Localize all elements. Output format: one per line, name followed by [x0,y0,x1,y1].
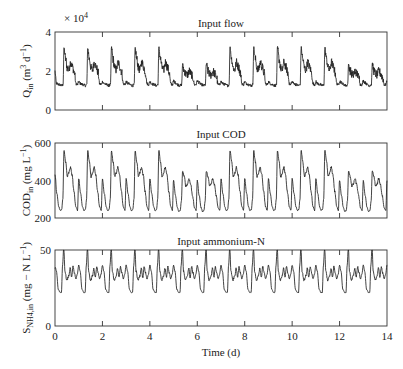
x-axis-label: Time (d) [202,346,241,359]
y-tick-label: 50 [40,244,52,256]
axes-frame [55,250,387,326]
y-tick-label: 0 [46,104,52,116]
panel-input-ammonium: Input ammonium-N Time (d) 02468101214050… [19,235,393,359]
data-series-line [55,250,387,293]
x-tick-label: 14 [382,330,394,342]
y-tick-label: 200 [35,212,52,224]
y-tick-label: 0 [46,320,52,332]
x-tick-label: 12 [334,330,345,342]
y-tick-label: 4 [46,26,52,38]
x-tick-label: 2 [100,330,106,342]
x-tick-label: 8 [242,330,248,342]
data-series-line [55,46,387,87]
panel-title-flow: Input flow [198,17,244,29]
chart-figure: × 104 Input flow 024Qin (m3 d−1) Input C… [0,0,403,369]
x-tick-label: 4 [147,330,153,342]
y-tick-label: 2 [46,65,52,77]
y-tick-label: 600 [35,137,52,149]
y-axis-label: Qin (m3 d−1) [19,44,35,98]
data-series-line [55,150,387,211]
panel-input-flow: × 104 Input flow 024Qin (m3 d−1) [19,11,387,116]
x-tick-label: 0 [52,330,58,342]
x-tick-label: 10 [287,330,299,342]
multiplier-label: × 104 [64,11,88,24]
x-tick-label: 6 [195,330,201,342]
y-axis-label: SNH4,in (mg − N L−1) [19,242,35,334]
panel-title-ammonium: Input ammonium-N [177,235,265,247]
panel-input-cod: Input COD 200400600CODin (mg L−1) [19,128,387,224]
panel-title-cod: Input COD [196,128,245,140]
axes-frame [55,32,387,110]
y-tick-label: 400 [35,175,52,187]
y-axis-label: CODin (mg L−1) [19,144,35,216]
